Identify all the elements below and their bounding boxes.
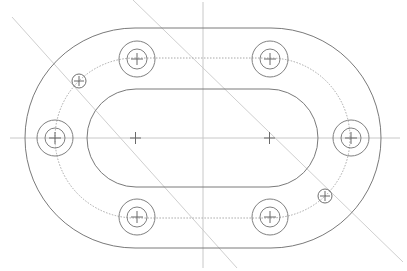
dowel-hole-lower-right — [318, 189, 332, 203]
arc-center-left — [130, 132, 141, 144]
bolt-hole-top-left — [119, 41, 155, 77]
dowel-hole-upper-left — [72, 74, 86, 88]
diagonal-construction-line-2 — [133, 0, 403, 262]
arc-center-right — [264, 132, 275, 144]
technical-drawing: Obround flange plate with bolt holes — [0, 0, 407, 271]
